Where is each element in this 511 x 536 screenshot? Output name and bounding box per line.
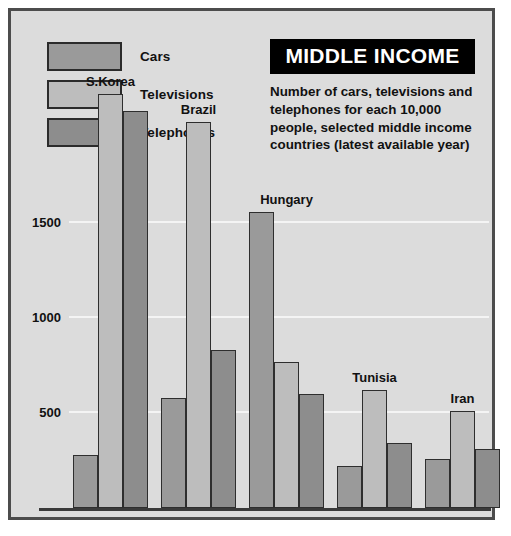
group-label-hungary: Hungary bbox=[260, 192, 313, 207]
legend-label-cars: Cars bbox=[140, 49, 170, 64]
x-axis-line bbox=[39, 508, 491, 511]
bar-brazil-telephones bbox=[211, 350, 236, 508]
bar-iran-cars bbox=[425, 459, 450, 508]
bar-hungary-cars bbox=[249, 212, 274, 508]
bar-brazil-televisions bbox=[186, 122, 211, 508]
bar-iran-televisions bbox=[450, 411, 475, 508]
bar-tunisia-telephones bbox=[387, 443, 412, 508]
legend-item-cars: Cars bbox=[47, 37, 215, 75]
plot-area: 50010001500 S.KoreaBrazilHungaryTunisiaI… bbox=[69, 71, 489, 508]
bar-skorea-televisions bbox=[98, 94, 123, 508]
bar-iran-telephones bbox=[475, 449, 500, 508]
y-axis-tick-500: 500 bbox=[39, 405, 61, 420]
group-label-tunisia: Tunisia bbox=[352, 370, 397, 385]
bar-hungary-televisions bbox=[274, 362, 299, 508]
bar-brazil-cars bbox=[161, 398, 186, 508]
bar-tunisia-cars bbox=[337, 466, 362, 508]
group-label-brazil: Brazil bbox=[181, 102, 216, 117]
legend-swatch-cars bbox=[47, 42, 122, 71]
group-label-iran: Iran bbox=[451, 391, 475, 406]
bar-hungary-telephones bbox=[299, 394, 324, 508]
y-axis-tick-1500: 1500 bbox=[32, 215, 61, 230]
bar-skorea-cars bbox=[73, 455, 98, 508]
group-label-skorea: S.Korea bbox=[86, 74, 135, 89]
bar-skorea-telephones bbox=[123, 111, 148, 508]
bar-tunisia-televisions bbox=[362, 390, 387, 508]
chart-title: MIDDLE INCOME bbox=[270, 39, 475, 74]
y-axis-tick-1000: 1000 bbox=[32, 310, 61, 325]
chart-figure: Cars Televisions Telephones MIDDLE INCOM… bbox=[8, 8, 495, 520]
